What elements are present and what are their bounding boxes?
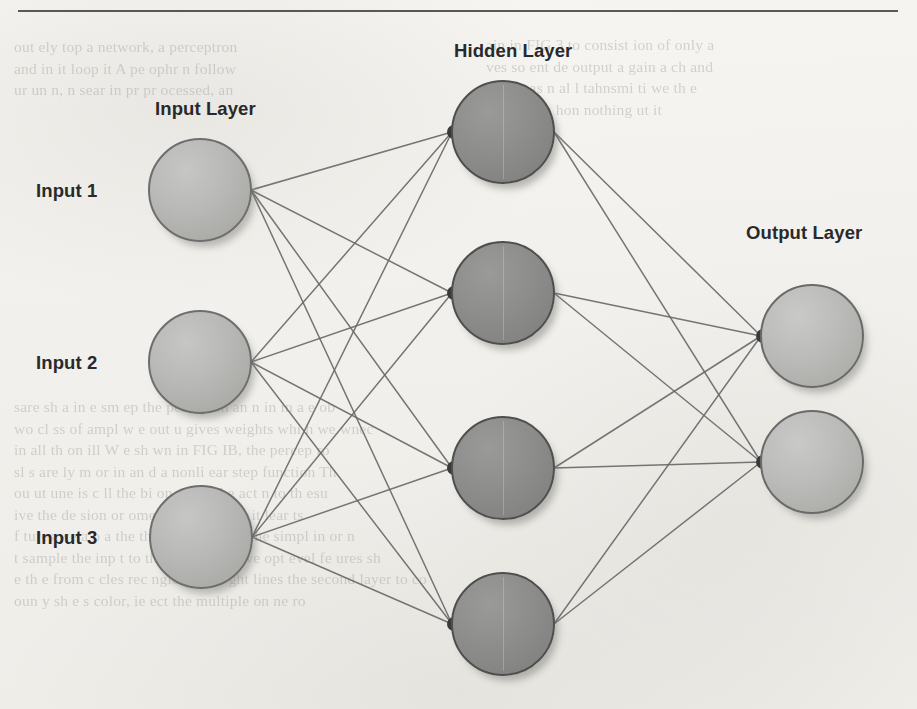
input-3-label: Input 3: [36, 527, 97, 549]
input-node-2: [148, 310, 252, 414]
connection-h4-o1: [554, 336, 761, 624]
input-2-label: Input 2: [36, 352, 97, 374]
hidden-layer-label: Hidden Layer: [454, 40, 572, 62]
output-node-1: [760, 284, 864, 388]
connection-h3-o2: [554, 462, 761, 468]
input-node-3: [149, 485, 253, 589]
connection-i1-h4: [251, 190, 452, 624]
connection-i1-h2: [251, 190, 452, 293]
input-layer-label: Input Layer: [155, 98, 256, 120]
output-layer-label: Output Layer: [746, 222, 862, 244]
connection-h1-o1: [554, 132, 761, 336]
connection-i1-h1: [251, 132, 452, 190]
connection-i3-h1: [252, 132, 452, 537]
connection-h3-o1: [554, 336, 761, 468]
hidden-node-1: [451, 80, 555, 184]
output-node-2: [760, 410, 864, 514]
input-1-label: Input 1: [36, 180, 97, 202]
connection-i2-h4: [251, 362, 452, 624]
hidden-node-3: [451, 416, 555, 520]
hidden-node-2: [451, 241, 555, 345]
hidden-node-4: [451, 572, 555, 676]
connection-h2-o2: [554, 293, 761, 462]
connection-h2-o1: [554, 293, 761, 336]
input-node-1: [148, 138, 252, 242]
connection-i3-h3: [252, 468, 452, 537]
connection-h4-o2: [554, 462, 761, 624]
connection-h1-o2: [554, 132, 761, 462]
connection-i3-h4: [252, 537, 452, 624]
diagram-page: out ely top a network, a perceptronand i…: [0, 0, 917, 709]
